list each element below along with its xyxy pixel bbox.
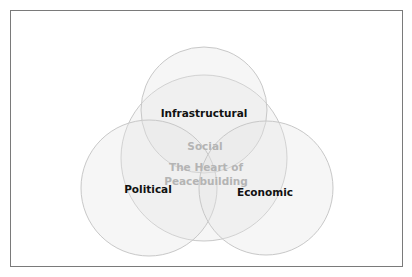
label-center-line2: Peacebuilding (164, 175, 248, 187)
label-political: Political (124, 183, 172, 195)
label-social: Social (187, 140, 222, 152)
venn-diagram: Infrastructural Social The Heart of Peac… (0, 0, 412, 277)
label-economic: Economic (237, 186, 293, 198)
label-infrastructural: Infrastructural (161, 107, 248, 119)
label-center-line1: The Heart of (169, 161, 243, 173)
